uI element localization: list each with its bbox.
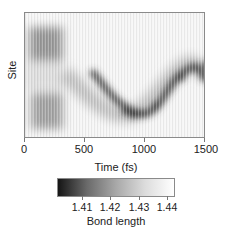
colorbar-tick-1.42 (110, 196, 111, 200)
x-tick-0 (24, 138, 25, 142)
x-tick-500 (84, 138, 85, 142)
colorbar-tick-label: 1.43 (124, 201, 154, 213)
colorbar (57, 178, 175, 197)
colorbar-tick-label: 1.42 (95, 201, 125, 213)
heatmap-image (25, 13, 205, 138)
colorbar-label: Bond length (57, 215, 175, 227)
colorbar-tick-1.43 (139, 196, 140, 200)
x-tick-label: 1500 (186, 143, 226, 155)
x-tick-1000 (144, 138, 145, 142)
colorbar-gradient (58, 179, 174, 196)
colorbar-tick-label: 1.41 (67, 201, 97, 213)
heatmap-plot (24, 12, 205, 138)
x-tick-label: 0 (4, 143, 44, 155)
x-tick-label: 1000 (124, 143, 164, 155)
y-axis-label: Site (6, 55, 18, 85)
x-tick-label: 500 (64, 143, 104, 155)
colorbar-tick-1.41 (82, 196, 83, 200)
colorbar-tick-1.44 (167, 196, 168, 200)
x-axis-label: Time (fs) (0, 161, 228, 173)
x-tick-1500 (204, 138, 205, 142)
colorbar-tick-label: 1.44 (152, 201, 182, 213)
